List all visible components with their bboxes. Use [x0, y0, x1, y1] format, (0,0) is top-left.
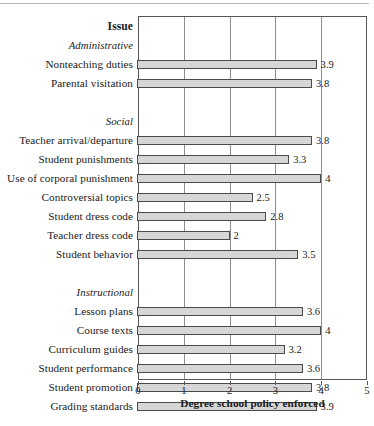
group-heading-row: Instructional — [0, 283, 369, 302]
group-heading-row: Social — [0, 112, 369, 131]
chart-row: Use of corporal punishment4 — [0, 169, 369, 188]
bar-value-label: 4 — [325, 321, 330, 340]
category-label: Grading standards — [0, 397, 133, 416]
bar-container: 3.3 — [138, 150, 367, 169]
spacer-row — [0, 264, 369, 283]
bar-container: 3.6 — [138, 359, 367, 378]
bar-container: 3.9 — [138, 55, 367, 74]
category-label: Student promotion — [0, 378, 133, 397]
chart-row: Student dress code2.8 — [0, 207, 369, 226]
category-label: Course texts — [0, 321, 133, 340]
category-label: Student performance — [0, 359, 133, 378]
chart-row: Course texts4 — [0, 321, 369, 340]
x-tick-label-5: 5 — [357, 385, 374, 396]
bar-container: 3.8 — [138, 131, 367, 150]
bar — [137, 136, 312, 145]
x-axis: 012345 — [138, 381, 367, 397]
bar-value-label: 3.3 — [293, 150, 306, 169]
chart-row: Nonteaching duties3.9 — [0, 55, 369, 74]
x-tick-label-0: 0 — [128, 385, 148, 396]
x-tick-label-3: 3 — [265, 385, 285, 396]
bar-container: 4 — [138, 169, 367, 188]
bar — [137, 60, 317, 69]
chart-row: Student punishments3.3 — [0, 150, 369, 169]
x-tick-label-1: 1 — [174, 385, 194, 396]
bar — [137, 231, 230, 240]
bar-value-label: 3.2 — [289, 340, 302, 359]
x-tick-label-2: 2 — [220, 385, 240, 396]
category-label: Lesson plans — [0, 302, 133, 321]
bar — [137, 212, 266, 221]
bar — [137, 193, 253, 202]
bar-value-label: 2 — [234, 226, 239, 245]
column-header-row: Issue — [0, 17, 369, 36]
bar-value-label: 3.6 — [307, 302, 320, 321]
bar — [137, 307, 303, 316]
bar — [137, 174, 321, 183]
bar-container: 3.5 — [138, 245, 367, 264]
chart-row: Teacher arrival/departure3.8 — [0, 131, 369, 150]
bar-container: 4 — [138, 321, 367, 340]
category-label: Nonteaching duties — [0, 55, 133, 74]
bar-value-label: 3.5 — [302, 245, 315, 264]
bar — [137, 79, 312, 88]
bar-container: 2.5 — [138, 188, 367, 207]
chart-row: Lesson plans3.6 — [0, 302, 369, 321]
group-heading-row: Administrative — [0, 36, 369, 55]
group-label: Administrative — [0, 36, 133, 55]
bar-value-label: 3.8 — [316, 131, 329, 150]
column-header-label: Issue — [0, 17, 133, 36]
category-label: Controversial topics — [0, 188, 133, 207]
category-label: Use of corporal punishment — [0, 169, 133, 188]
bar — [137, 345, 285, 354]
bar-container: 2.8 — [138, 207, 367, 226]
bar — [137, 326, 321, 335]
bar-container: 3.2 — [138, 340, 367, 359]
category-label: Curriculum guides — [0, 340, 133, 359]
bar-value-label: 2.8 — [270, 207, 283, 226]
bar — [137, 364, 303, 373]
chart-row: Controversial topics2.5 — [0, 188, 369, 207]
chart-row: Teacher dress code2 — [0, 226, 369, 245]
group-label: Social — [0, 112, 133, 131]
bar-value-label: 2.5 — [257, 188, 270, 207]
chart-row: Parental visitation3.8 — [0, 74, 369, 93]
bar-value-label: 3.6 — [307, 359, 320, 378]
category-label: Student punishments — [0, 150, 133, 169]
bar — [137, 155, 289, 164]
bar-container: 3.8 — [138, 74, 367, 93]
category-label: Student dress code — [0, 207, 133, 226]
category-label: Student behavior — [0, 245, 133, 264]
bar-container: 2 — [138, 226, 367, 245]
chart-row: Curriculum guides3.2 — [0, 340, 369, 359]
bar-container: 3.6 — [138, 302, 367, 321]
group-label: Instructional — [0, 283, 133, 302]
category-label: Teacher arrival/departure — [0, 131, 133, 150]
x-axis-title: Degree school policy enforced — [138, 397, 367, 409]
category-label: Parental visitation — [0, 74, 133, 93]
x-tick-label-4: 4 — [311, 385, 331, 396]
chart-row: Student performance3.6 — [0, 359, 369, 378]
spacer-row — [0, 93, 369, 112]
bar — [137, 250, 298, 259]
bar-value-label: 3.9 — [321, 55, 334, 74]
category-label: Teacher dress code — [0, 226, 133, 245]
bar-value-label: 3.8 — [316, 74, 329, 93]
bar-value-label: 4 — [325, 169, 330, 188]
chart-row: Student behavior3.5 — [0, 245, 369, 264]
